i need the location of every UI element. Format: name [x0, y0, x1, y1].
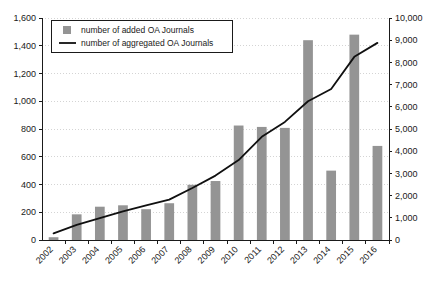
x-axis-group: 2002200320042005200620072008200920102011… [34, 240, 389, 266]
legend-label-added: number of added OA Journals [81, 25, 194, 35]
right-tick-label: 1,000 [395, 213, 418, 223]
left-tick-label: 600 [21, 152, 36, 162]
right-tick-label: 2,000 [395, 191, 418, 201]
x-tick-label: 2016 [358, 244, 379, 265]
x-tick-label: 2005 [103, 244, 124, 265]
right-tick-label: 5,000 [395, 124, 418, 134]
left-tick-label: 1,200 [13, 69, 36, 79]
left-tick-label: 1,600 [13, 13, 36, 23]
bar [141, 209, 151, 240]
bars-group [49, 35, 383, 240]
left-tick-label: 0 [31, 235, 36, 245]
bar [164, 203, 174, 240]
right-tick-label: 4,000 [395, 146, 418, 156]
left-tick-label: 400 [21, 180, 36, 190]
x-tick-label: 2003 [57, 244, 78, 265]
right-tick-label: 6,000 [395, 102, 418, 112]
bar [95, 207, 105, 240]
bar [349, 35, 359, 240]
right-tick-label: 3,000 [395, 169, 418, 179]
right-axis-group: 01,0002,0003,0004,0005,0006,0007,0008,00… [389, 13, 423, 245]
x-tick-label: 2011 [242, 244, 263, 265]
right-tick-label: 8,000 [395, 58, 418, 68]
left-tick-label: 1,000 [13, 96, 36, 106]
left-tick-label: 800 [21, 124, 36, 134]
x-tick-label: 2013 [288, 244, 309, 265]
right-tick-label: 0 [395, 235, 400, 245]
bar [234, 126, 244, 240]
bar [72, 214, 82, 240]
x-tick-label: 2007 [149, 244, 170, 265]
right-tick-label: 9,000 [395, 35, 418, 45]
x-tick-label: 2010 [219, 244, 240, 265]
bar [257, 127, 267, 240]
oa-journals-chart: 02004006008001,0001,2001,4001,600 01,000… [0, 0, 437, 284]
right-tick-label: 10,000 [395, 13, 423, 23]
bar [211, 181, 221, 240]
bar [303, 40, 313, 240]
x-tick-label: 2015 [334, 244, 355, 265]
left-tick-label: 200 [21, 207, 36, 217]
left-tick-label: 1,400 [13, 41, 36, 51]
x-tick-label: 2012 [265, 244, 286, 265]
legend-square-marker-icon [63, 26, 71, 34]
bar [326, 171, 336, 240]
x-tick-label: 2014 [311, 244, 332, 265]
x-tick-label: 2004 [80, 244, 101, 265]
legend-label-aggregated: number of aggregated OA Journals [81, 38, 213, 48]
x-tick-label: 2009 [196, 244, 217, 265]
chart-container: 02004006008001,0001,2001,4001,600 01,000… [0, 0, 437, 284]
x-tick-label: 2006 [126, 244, 147, 265]
x-tick-label: 2002 [34, 244, 55, 265]
bar [188, 185, 198, 240]
bar [373, 146, 383, 240]
left-axis-group: 02004006008001,0001,2001,4001,600 [13, 13, 42, 245]
right-tick-label: 7,000 [395, 80, 418, 90]
x-tick-label: 2008 [173, 244, 194, 265]
bar [280, 128, 290, 240]
legend-group: number of added OA Journalsnumber of agg… [51, 20, 232, 52]
